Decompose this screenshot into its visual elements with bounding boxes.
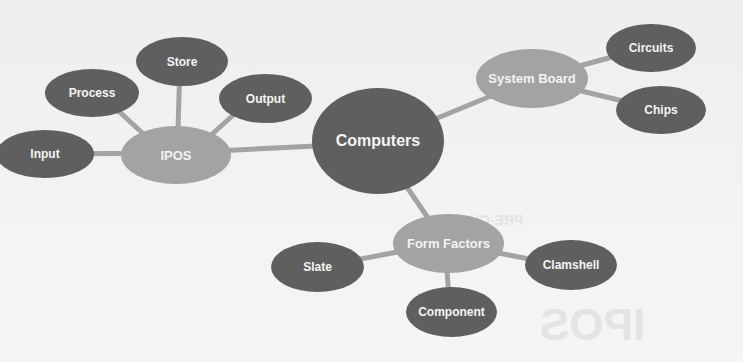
node-leaf-chips[interactable]: Chips [616, 86, 706, 134]
node-label: Input [30, 147, 59, 161]
node-leaf-clamshell[interactable]: Clamshell [525, 240, 617, 290]
node-label: Process [69, 86, 116, 100]
node-leaf-slate[interactable]: Slate [271, 242, 364, 292]
node-label: Output [246, 92, 285, 106]
node-branch-form-factors[interactable]: Form Factors [393, 214, 504, 273]
node-label: IPOS [160, 148, 191, 163]
node-label: Component [418, 305, 485, 319]
node-branch-ipos[interactable]: IPOS [121, 126, 231, 184]
node-leaf-circuits[interactable]: Circuits [606, 24, 696, 72]
node-center[interactable]: Computers [312, 88, 444, 194]
node-branch-system-board[interactable]: System Board [476, 49, 588, 108]
node-label: System Board [488, 71, 575, 86]
node-label: Chips [644, 103, 677, 117]
node-label: Store [167, 55, 198, 69]
node-center-label: Computers [336, 132, 420, 150]
node-label: Form Factors [407, 236, 490, 251]
node-leaf-component[interactable]: Component [406, 287, 497, 337]
node-leaf-input[interactable]: Input [0, 130, 94, 178]
node-label: Clamshell [543, 258, 600, 272]
node-leaf-store[interactable]: Store [136, 37, 228, 86]
node-leaf-output[interactable]: Output [219, 74, 312, 123]
node-label: Slate [303, 260, 332, 274]
node-leaf-process[interactable]: Process [45, 69, 139, 117]
node-label: Circuits [629, 41, 674, 55]
